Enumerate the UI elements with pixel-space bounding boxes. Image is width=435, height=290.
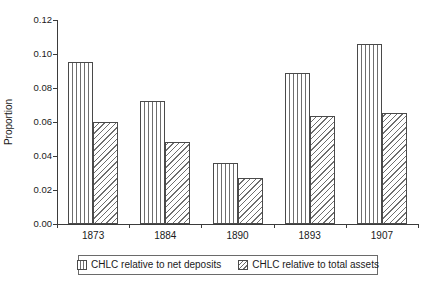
y-axis-tick-label: 0.08 [34,83,53,93]
x-axis-tick-label-1907: 1907 [371,231,393,241]
bar-1884-series2 [165,142,190,224]
y-axis-tick-label: 0.00 [34,219,53,229]
x-axis-tick-label-1884: 1884 [154,231,176,241]
bar-1873-series2 [93,122,118,224]
x-axis-tick-label-1890: 1890 [226,231,248,241]
y-axis-tick [53,20,57,21]
x-axis-tick [129,224,130,228]
x-axis-tick [274,224,275,228]
bar-chart: Proportion 0.000.020.040.060.080.100.12 … [0,0,435,290]
x-axis-tick [346,224,347,228]
y-axis-tick [53,54,57,55]
y-axis-tick [53,190,57,191]
y-axis-tick-label: 0.10 [34,49,53,59]
x-axis-tick-label-1873: 1873 [82,231,104,241]
y-axis-label: Proportion [4,99,14,145]
legend-label-net-deposits: CHLC relative to net deposits [91,260,221,270]
bar-1893-series1 [285,73,310,224]
bar-1907-series1 [357,44,382,224]
y-axis-tick-label: 0.04 [34,151,53,161]
x-axis-tick-label-1893: 1893 [299,231,321,241]
x-axis-line [57,224,418,225]
bar-1884-series1 [140,101,165,224]
legend-label-total-assets: CHLC relative to total assets [252,260,379,270]
bar-1873-series1 [68,62,93,224]
bar-1907-series2 [382,113,407,224]
legend-swatch-vertical-stripes-icon [77,260,87,270]
y-axis-tick-label: 0.06 [34,117,53,127]
legend-entry-net-deposits: CHLC relative to net deposits [77,260,221,270]
y-axis-tick [53,156,57,157]
x-axis-tick [418,224,419,228]
legend-swatch-diagonal-hatch-icon [238,260,248,270]
plot-area: 0.000.020.040.060.080.100.12 [57,20,418,224]
bar-1893-series2 [310,116,335,224]
y-axis-tick [53,88,57,89]
bar-1890-series1 [213,163,238,224]
bar-1890-series2 [238,178,263,224]
y-axis-tick-label: 0.02 [34,185,53,195]
y-axis-tick-label: 0.12 [34,15,53,25]
chart-legend: CHLC relative to net deposits CHLC relat… [78,255,378,275]
x-axis-tick [57,224,58,228]
legend-entry-total-assets: CHLC relative to total assets [238,260,379,270]
x-axis-tick [201,224,202,228]
y-axis-tick [53,122,57,123]
